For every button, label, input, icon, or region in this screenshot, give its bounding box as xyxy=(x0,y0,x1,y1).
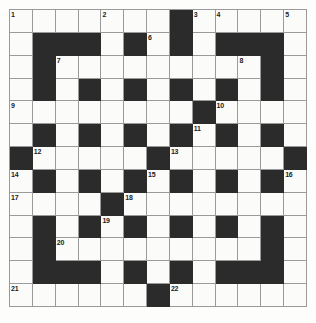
crossword-open-cell[interactable] xyxy=(238,216,261,239)
crossword-open-cell[interactable]: 5 xyxy=(284,10,307,33)
crossword-open-cell[interactable] xyxy=(261,284,284,307)
crossword-open-cell[interactable]: 6 xyxy=(147,33,170,56)
crossword-open-cell[interactable] xyxy=(79,101,102,124)
crossword-open-cell[interactable] xyxy=(124,10,147,33)
crossword-open-cell[interactable] xyxy=(56,170,79,193)
crossword-open-cell[interactable] xyxy=(33,193,56,216)
crossword-open-cell[interactable] xyxy=(284,33,307,56)
crossword-open-cell[interactable] xyxy=(170,238,193,261)
crossword-open-cell[interactable] xyxy=(10,216,33,239)
crossword-open-cell[interactable] xyxy=(147,193,170,216)
crossword-open-cell[interactable] xyxy=(284,238,307,261)
crossword-open-cell[interactable]: 7 xyxy=(56,56,79,79)
crossword-open-cell[interactable]: 8 xyxy=(238,56,261,79)
crossword-open-cell[interactable] xyxy=(10,33,33,56)
crossword-open-cell[interactable] xyxy=(193,284,216,307)
crossword-open-cell[interactable]: 9 xyxy=(10,101,33,124)
crossword-open-cell[interactable] xyxy=(79,56,102,79)
crossword-open-cell[interactable]: 11 xyxy=(193,124,216,147)
crossword-open-cell[interactable] xyxy=(238,101,261,124)
crossword-open-cell[interactable] xyxy=(33,101,56,124)
crossword-open-cell[interactable]: 19 xyxy=(101,216,124,239)
crossword-open-cell[interactable] xyxy=(147,56,170,79)
crossword-open-cell[interactable] xyxy=(147,261,170,284)
crossword-open-cell[interactable]: 4 xyxy=(216,10,239,33)
crossword-open-cell[interactable] xyxy=(56,10,79,33)
crossword-open-cell[interactable] xyxy=(238,10,261,33)
crossword-open-cell[interactable] xyxy=(101,79,124,102)
crossword-open-cell[interactable] xyxy=(101,56,124,79)
crossword-open-cell[interactable] xyxy=(170,101,193,124)
crossword-open-cell[interactable] xyxy=(170,56,193,79)
crossword-open-cell[interactable] xyxy=(261,10,284,33)
crossword-open-cell[interactable] xyxy=(56,193,79,216)
crossword-open-cell[interactable] xyxy=(10,79,33,102)
crossword-open-cell[interactable] xyxy=(261,193,284,216)
crossword-open-cell[interactable] xyxy=(147,79,170,102)
crossword-open-cell[interactable]: 2 xyxy=(101,10,124,33)
crossword-open-cell[interactable] xyxy=(33,284,56,307)
crossword-open-cell[interactable] xyxy=(193,238,216,261)
crossword-open-cell[interactable]: 1 xyxy=(10,10,33,33)
crossword-open-cell[interactable] xyxy=(216,193,239,216)
crossword-open-cell[interactable] xyxy=(101,124,124,147)
crossword-open-cell[interactable] xyxy=(10,56,33,79)
crossword-open-cell[interactable] xyxy=(101,284,124,307)
crossword-open-cell[interactable] xyxy=(79,10,102,33)
crossword-open-cell[interactable] xyxy=(216,284,239,307)
crossword-open-cell[interactable]: 21 xyxy=(10,284,33,307)
crossword-open-cell[interactable] xyxy=(193,147,216,170)
crossword-open-cell[interactable] xyxy=(124,56,147,79)
crossword-open-cell[interactable] xyxy=(79,193,102,216)
crossword-open-cell[interactable] xyxy=(79,147,102,170)
crossword-open-cell[interactable] xyxy=(101,147,124,170)
crossword-open-cell[interactable]: 22 xyxy=(170,284,193,307)
crossword-open-cell[interactable] xyxy=(147,101,170,124)
crossword-open-cell[interactable] xyxy=(56,101,79,124)
crossword-open-cell[interactable]: 18 xyxy=(124,193,147,216)
crossword-open-cell[interactable] xyxy=(101,101,124,124)
crossword-open-cell[interactable] xyxy=(284,284,307,307)
crossword-grid[interactable]: 12345678910111213141516171819202122 xyxy=(9,9,307,307)
crossword-open-cell[interactable]: 12 xyxy=(33,147,56,170)
crossword-open-cell[interactable] xyxy=(56,147,79,170)
crossword-open-cell[interactable] xyxy=(261,147,284,170)
crossword-open-cell[interactable] xyxy=(284,261,307,284)
crossword-open-cell[interactable] xyxy=(238,284,261,307)
crossword-open-cell[interactable]: 20 xyxy=(56,238,79,261)
crossword-open-cell[interactable] xyxy=(193,193,216,216)
crossword-open-cell[interactable] xyxy=(238,124,261,147)
crossword-open-cell[interactable]: 10 xyxy=(216,101,239,124)
crossword-open-cell[interactable] xyxy=(216,238,239,261)
crossword-open-cell[interactable] xyxy=(193,79,216,102)
crossword-open-cell[interactable] xyxy=(147,124,170,147)
crossword-open-cell[interactable]: 3 xyxy=(193,10,216,33)
crossword-open-cell[interactable]: 13 xyxy=(170,147,193,170)
crossword-open-cell[interactable]: 15 xyxy=(147,170,170,193)
crossword-open-cell[interactable] xyxy=(170,193,193,216)
crossword-open-cell[interactable]: 17 xyxy=(10,193,33,216)
crossword-open-cell[interactable]: 14 xyxy=(10,170,33,193)
crossword-open-cell[interactable] xyxy=(10,238,33,261)
crossword-open-cell[interactable] xyxy=(101,33,124,56)
crossword-open-cell[interactable] xyxy=(238,147,261,170)
crossword-open-cell[interactable] xyxy=(193,170,216,193)
crossword-open-cell[interactable] xyxy=(101,238,124,261)
crossword-open-cell[interactable] xyxy=(10,261,33,284)
crossword-open-cell[interactable] xyxy=(238,193,261,216)
crossword-open-cell[interactable] xyxy=(101,261,124,284)
crossword-open-cell[interactable] xyxy=(284,124,307,147)
crossword-open-cell[interactable] xyxy=(284,101,307,124)
crossword-open-cell[interactable] xyxy=(238,238,261,261)
crossword-open-cell[interactable] xyxy=(56,79,79,102)
crossword-open-cell[interactable] xyxy=(33,10,56,33)
crossword-open-cell[interactable] xyxy=(193,216,216,239)
crossword-open-cell[interactable] xyxy=(284,193,307,216)
crossword-open-cell[interactable] xyxy=(147,10,170,33)
crossword-open-cell[interactable] xyxy=(10,124,33,147)
crossword-open-cell[interactable] xyxy=(101,170,124,193)
crossword-open-cell[interactable] xyxy=(147,238,170,261)
crossword-open-cell[interactable] xyxy=(56,124,79,147)
crossword-open-cell[interactable] xyxy=(79,238,102,261)
crossword-open-cell[interactable] xyxy=(238,79,261,102)
